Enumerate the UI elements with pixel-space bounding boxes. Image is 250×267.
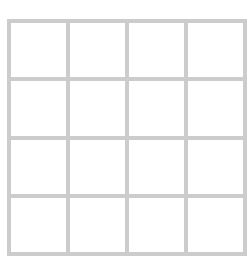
grid-cell-r2-c2[interactable] bbox=[70, 81, 125, 135]
grid-cell-r4-c3[interactable] bbox=[129, 198, 184, 252]
grid-cell-r1-c4[interactable] bbox=[188, 23, 243, 77]
grid-cell-r4-c2[interactable] bbox=[70, 198, 125, 252]
grid-cell-r2-c3[interactable] bbox=[129, 81, 184, 135]
grid-cell-r3-c1[interactable] bbox=[11, 140, 66, 194]
grid-cell-r2-c1[interactable] bbox=[11, 81, 66, 135]
grid-cell-r3-c4[interactable] bbox=[188, 140, 243, 194]
grid-cell-r4-c4[interactable] bbox=[188, 198, 243, 252]
grid-board bbox=[7, 19, 247, 256]
grid-cell-r1-c3[interactable] bbox=[129, 23, 184, 77]
grid-cell-r3-c3[interactable] bbox=[129, 140, 184, 194]
grid-cell-r3-c2[interactable] bbox=[70, 140, 125, 194]
grid-cell-r1-c1[interactable] bbox=[11, 23, 66, 77]
grid-cell-r4-c1[interactable] bbox=[11, 198, 66, 252]
grid-cell-r1-c2[interactable] bbox=[70, 23, 125, 77]
grid-cell-r2-c4[interactable] bbox=[188, 81, 243, 135]
